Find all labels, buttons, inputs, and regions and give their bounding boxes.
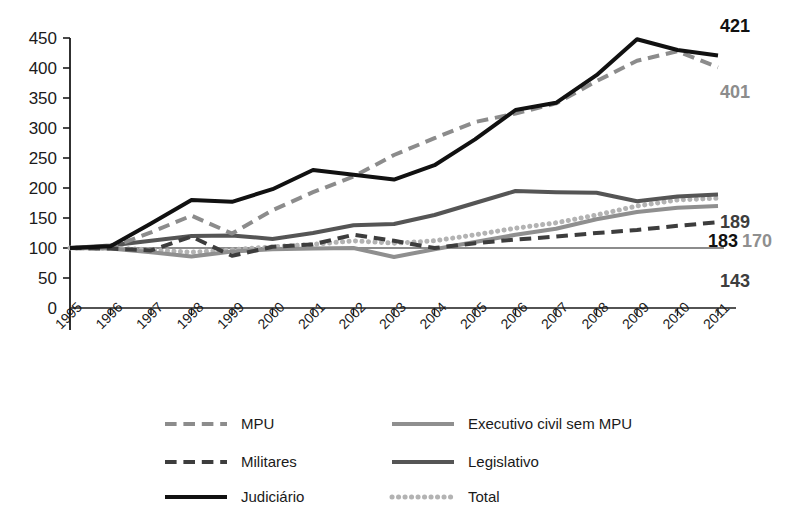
- y-axis-tick-label: 150: [29, 209, 57, 228]
- series-end-label: 421: [720, 16, 750, 36]
- chart-background: [0, 0, 803, 524]
- y-axis-tick-label: 300: [29, 119, 57, 138]
- chart-container: 450400350300250200150100500 199519961997…: [0, 0, 803, 524]
- series-end-label: 183: [708, 231, 738, 251]
- legend-label: MPU: [241, 415, 274, 432]
- series-end-label: 401: [720, 82, 750, 102]
- y-axis-tick-label: 100: [29, 239, 57, 258]
- y-axis-tick-label: 400: [29, 59, 57, 78]
- y-axis-tick-label: 250: [29, 149, 57, 168]
- series-end-label: 143: [720, 271, 750, 291]
- y-axis-tick-label: 450: [29, 29, 57, 48]
- legend-label: Total: [468, 488, 500, 505]
- line-chart: 450400350300250200150100500 199519961997…: [0, 0, 803, 524]
- series-end-label: 189: [720, 212, 750, 232]
- legend-label: Militares: [241, 453, 297, 470]
- y-axis-tick-label: 200: [29, 179, 57, 198]
- y-axis-tick-label: 350: [29, 89, 57, 108]
- series-end-label: 170: [742, 231, 772, 251]
- y-axis-tick-label: 0: [48, 299, 57, 318]
- legend-label: Legislativo: [468, 453, 539, 470]
- legend-label: Judiciário: [241, 488, 304, 505]
- legend-label: Executivo civil sem MPU: [468, 415, 632, 432]
- y-axis-tick-label: 50: [38, 269, 57, 288]
